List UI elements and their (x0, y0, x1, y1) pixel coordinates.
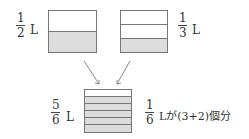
filled-part (85, 111, 131, 118)
numerator: 1 (145, 99, 155, 112)
arrow-right-icon (117, 61, 130, 84)
fraction-five-sixths: 5 6 (51, 99, 61, 126)
arrow-left-icon (84, 61, 99, 84)
filled-part (85, 104, 131, 111)
fraction-one-sixth: 1 6 (145, 99, 155, 126)
numerator: 5 (51, 99, 61, 112)
denominator: 6 (146, 113, 154, 126)
caption-text: Lが(3+2)個分 (159, 111, 231, 123)
filled-part (85, 97, 131, 104)
unit-label: L (66, 111, 74, 123)
empty-part (85, 90, 131, 97)
filled-part (85, 118, 131, 125)
denominator: 6 (52, 113, 60, 126)
container-sum (84, 89, 132, 133)
filled-part (85, 125, 131, 132)
